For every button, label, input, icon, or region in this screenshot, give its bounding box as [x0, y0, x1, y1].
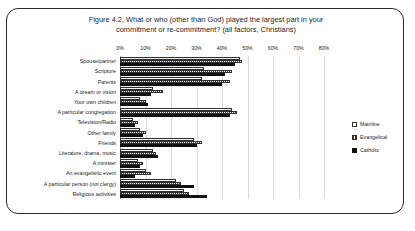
bar-catholic — [120, 185, 194, 188]
category-label: A particular person (not clergy) — [44, 181, 116, 187]
legend-item-evangelical[interactable]: Evangelical — [352, 134, 410, 140]
legend-item-mainline[interactable]: Mainline — [352, 121, 410, 127]
chart-title-line-2: commitment or re-commitment? (all factor… — [51, 25, 361, 35]
chart-legend: MainlineEvangelicalCatholic — [352, 121, 410, 160]
legend-item-label: Mainline — [360, 121, 380, 127]
category-label: Television/Radio — [77, 119, 116, 125]
bar-catholic — [120, 134, 143, 137]
bar-catholic — [120, 155, 158, 158]
x-tick-30: 30% — [191, 45, 201, 51]
bar-catholic — [120, 63, 235, 66]
category-label: Friends — [98, 140, 116, 146]
bar-catholic — [120, 114, 230, 117]
bar-catholic — [120, 93, 151, 96]
bar-series-container — [120, 56, 324, 199]
x-tick-80: 80% — [319, 45, 329, 51]
bar-catholic — [120, 103, 148, 106]
gridline-80 — [324, 56, 325, 199]
x-tick-40: 40% — [217, 45, 227, 51]
category-label: Scripture — [95, 68, 116, 74]
chart-title: Figure 4.2, What or who (other than God)… — [51, 15, 361, 34]
category-label: Parents — [98, 79, 116, 85]
bar-catholic — [120, 124, 135, 127]
chart-title-line-1: Figure 4.2, What or who (other than God)… — [51, 15, 361, 25]
x-tick-20: 20% — [166, 45, 176, 51]
bar-catholic — [120, 73, 225, 76]
legend-item-label: Evangelical — [360, 134, 387, 140]
bar-catholic — [120, 165, 140, 168]
hollow-square-icon — [352, 122, 357, 127]
bar-catholic — [120, 175, 135, 178]
category-label: Literature, drama, music — [59, 150, 116, 156]
x-tick-0: 0% — [116, 45, 124, 51]
bar-catholic — [120, 83, 222, 86]
category-label: A minister — [93, 160, 116, 166]
category-label: A particular congregation — [57, 109, 116, 115]
x-tick-50: 50% — [242, 45, 252, 51]
plot-area — [120, 56, 324, 199]
legend-item-catholic[interactable]: Catholic — [352, 147, 410, 153]
hatched-square-icon — [352, 135, 357, 140]
category-label: Religious activities — [72, 191, 116, 197]
bar-catholic — [120, 195, 207, 198]
x-tick-60: 60% — [268, 45, 278, 51]
figure-frame: Figure 4.2, What or who (other than God)… — [6, 8, 404, 214]
category-label: Other family — [87, 130, 116, 136]
y-axis-category-labels: Spouse/partnerScriptureParentsA dream or… — [15, 56, 118, 199]
bar-catholic — [120, 144, 197, 147]
filled-square-icon — [352, 148, 357, 153]
x-tick-10: 10% — [140, 45, 150, 51]
category-label: Spouse/partner — [80, 58, 116, 64]
category-label: A dream or vision — [75, 89, 116, 95]
x-tick-70: 70% — [293, 45, 303, 51]
category-label: Your own children — [74, 99, 116, 105]
category-label: An evangelistic event — [66, 170, 116, 176]
legend-item-label: Catholic — [360, 147, 379, 153]
x-axis-tick-labels: 0%10%20%30%40%50%60%70%80% — [120, 45, 324, 56]
